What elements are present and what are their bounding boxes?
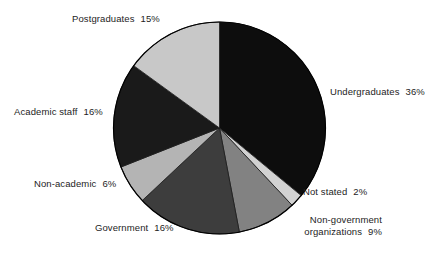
pie-label-postgraduates: Postgraduates15% [72, 13, 160, 25]
pie-label-non-academic-value: 6% [102, 178, 116, 189]
pie-label-non-academic: Non-academic6% [34, 178, 116, 190]
pie-label-academic-staff: Academic staff16% [14, 106, 103, 118]
pie-label-government-name: Government [95, 222, 148, 233]
pie-label-undergraduates-name: Undergraduates [330, 86, 400, 97]
pie-label-undergraduates-value: 36% [406, 86, 425, 97]
pie-label-non-academic-name: Non-academic [34, 178, 96, 189]
pie-label-government-value: 16% [154, 222, 173, 233]
pie-label-not-stated-name: Not stated [303, 186, 347, 197]
pie-label-government: Government16% [95, 222, 174, 234]
pie-label-not-stated-value: 2% [353, 186, 367, 197]
pie-label-not-stated: Not stated2% [303, 186, 367, 198]
pie-label-ngo-line2-wrap: organizations9% [262, 226, 382, 238]
pie-label-ngo-line1: Non-government [262, 214, 382, 226]
pie-label-academic-staff-value: 16% [84, 106, 103, 117]
pie-chart: Postgraduates15% Undergraduates36% Acade… [0, 0, 442, 259]
pie-label-ngo-line2: organizations [304, 226, 362, 237]
pie-label-postgraduates-value: 15% [141, 13, 160, 24]
pie-label-academic-staff-name: Academic staff [14, 106, 78, 117]
pie-label-non-government-organizations: Non-government organizations9% [262, 214, 382, 238]
pie-label-ngo-value: 9% [368, 226, 382, 237]
pie-label-undergraduates: Undergraduates36% [330, 86, 425, 98]
pie-label-postgraduates-name: Postgraduates [72, 13, 135, 24]
